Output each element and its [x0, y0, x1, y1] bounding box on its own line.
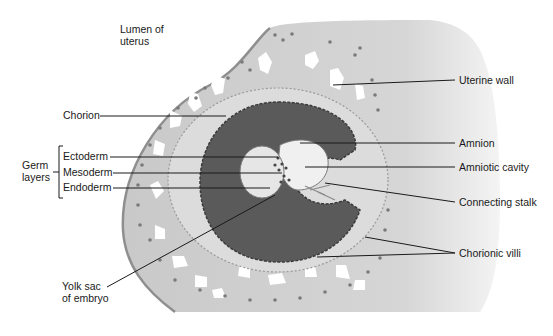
label-chorion: Chorion	[63, 109, 100, 121]
label-yolk-sac-line2: of embryo	[62, 292, 109, 304]
label-lumen-line2: uterus	[120, 35, 149, 47]
label-germ-layers-line2: layers	[22, 171, 50, 183]
label-germ-layers-line1: Germ	[22, 159, 49, 171]
label-lumen-line1: Lumen of	[120, 23, 164, 35]
yolk-sac	[240, 146, 284, 198]
label-uterine-wall: Uterine wall	[459, 74, 514, 86]
label-yolk-sac-line1: Yolk sac	[62, 280, 101, 292]
label-ectoderm: Ectoderm	[63, 150, 108, 162]
label-chorionic-villi: Chorionic villi	[459, 247, 521, 259]
embryo-implantation-diagram: Lumen of uterus Uterine wall Chorion Amn…	[0, 0, 553, 336]
label-connecting-stalk: Connecting stalk	[459, 196, 537, 208]
label-endoderm: Endoderm	[63, 181, 112, 193]
label-mesoderm: Mesoderm	[63, 166, 113, 178]
label-amnion: Amnion	[459, 137, 495, 149]
label-amniotic-cavity: Amniotic cavity	[459, 161, 530, 173]
